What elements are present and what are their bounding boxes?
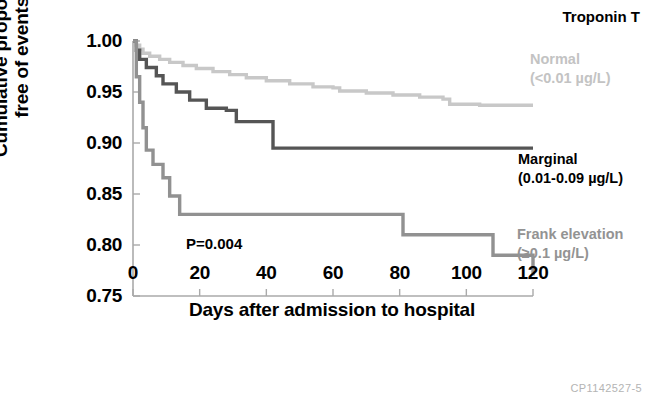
x-tick-label: 40 xyxy=(236,262,296,284)
axis-ticks xyxy=(133,41,533,296)
series-label-marginal-line2: (0.01-0.09 µg/L) xyxy=(518,169,623,188)
series-label-marginal-line1: Marginal xyxy=(518,150,623,169)
axis-spines xyxy=(133,41,533,296)
figure-kaplan-meier-troponin: Troponin T Cumulative proportion free of… xyxy=(0,0,664,419)
chart-canvas xyxy=(133,41,533,296)
series-line-normal xyxy=(133,41,533,105)
x-tick-label: 100 xyxy=(436,262,496,284)
series-label-frank-line2: (≥0.1 µg/L) xyxy=(517,244,623,263)
x-tick-label: 80 xyxy=(370,262,430,284)
y-tick-label: 0.90 xyxy=(62,132,122,154)
series-line-marginal xyxy=(133,41,533,148)
y-tick-label: 0.85 xyxy=(62,183,122,205)
x-tick-label: 60 xyxy=(303,262,363,284)
series-label-normal: Normal (<0.01 µg/L) xyxy=(530,50,610,87)
figure-id-watermark: CP1142527-5 xyxy=(571,382,642,394)
series-label-normal-line1: Normal xyxy=(530,50,610,69)
series-label-normal-line2: (<0.01 µg/L) xyxy=(530,69,610,88)
y-axis-label: Cumulative proportion free of events xyxy=(0,0,32,172)
x-tick-label: 0 xyxy=(103,262,163,284)
y-tick-label: 0.75 xyxy=(62,285,122,307)
y-tick-label: 0.95 xyxy=(62,81,122,103)
series-label-frank: Frank elevation (≥0.1 µg/L) xyxy=(517,225,623,262)
series-label-marginal: Marginal (0.01-0.09 µg/L) xyxy=(518,150,623,187)
x-tick-label: 20 xyxy=(170,262,230,284)
p-value-annotation: P=0.004 xyxy=(186,235,242,252)
plot-area xyxy=(133,41,533,296)
series-label-frank-line1: Frank elevation xyxy=(517,225,623,244)
chart-title: Troponin T xyxy=(563,8,640,25)
x-tick-label: 120 xyxy=(503,262,563,284)
y-axis-label-line1: Cumulative proportion xyxy=(0,0,11,172)
y-axis-label-line2: free of events xyxy=(11,0,32,172)
y-tick-label: 0.80 xyxy=(62,234,122,256)
y-tick-label: 1.00 xyxy=(62,30,122,52)
